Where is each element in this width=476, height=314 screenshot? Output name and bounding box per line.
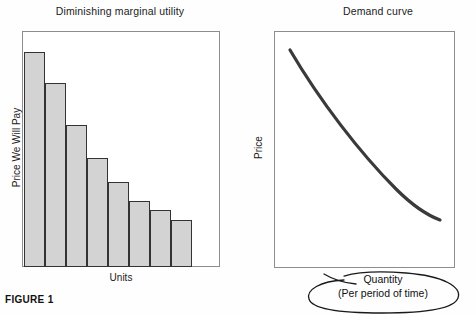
bar-unit-6 [129, 201, 150, 267]
right-y-axis-label: Price [253, 110, 264, 186]
figure-caption: FIGURE 1 [5, 294, 54, 305]
quantity-annotation: Quantity (Per period of time) [298, 266, 468, 314]
right-x-axis-label-secondary: (Per period of time) [298, 287, 468, 299]
panel-demand-curve: Demand curve Price Quantity (Per period … [240, 0, 476, 314]
right-x-axis-label-primary: Quantity [298, 273, 468, 285]
bar-unit-3 [66, 125, 87, 267]
bar-unit-2 [45, 83, 66, 267]
bar-unit-4 [87, 158, 108, 267]
bar-unit-7 [150, 210, 171, 267]
figure-1-container: Diminishing marginal utility Units Price… [0, 0, 476, 314]
left-chart-title: Diminishing marginal utility [0, 5, 240, 17]
left-x-axis-label: Units [22, 272, 220, 283]
panel-diminishing-marginal-utility: Diminishing marginal utility Units Price… [0, 0, 240, 290]
bar-series [22, 31, 220, 267]
bar-unit-8 [171, 220, 192, 267]
bar-unit-1 [24, 52, 45, 267]
right-chart-title: Demand curve [280, 5, 476, 17]
demand-curve-line [274, 31, 455, 268]
bar-unit-5 [108, 182, 129, 267]
left-y-axis-label: Price We Will Pay [11, 92, 22, 204]
